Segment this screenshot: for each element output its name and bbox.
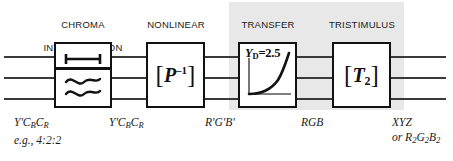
caption-line-1: CHROMA — [38, 19, 128, 31]
signal-name: RGB — [301, 116, 323, 128]
signal-sampling-note: e.g., 4:2:2 — [14, 133, 61, 148]
gamma-value-label: YD=2.5 — [245, 46, 280, 61]
block-nonlinear-matrix[interactable]: [P–1] — [146, 42, 205, 108]
wire-rail-1-segment-4 — [296, 56, 334, 58]
wire-rail-2-segment-3 — [204, 77, 240, 79]
block-tristimulus-matrix[interactable]: [T2] — [332, 42, 391, 108]
wire-rail-3-segment-1 — [4, 98, 56, 100]
wire-rail-3-segment-3 — [204, 98, 240, 100]
wire-rail-2-segment-4 — [296, 77, 334, 79]
signal-label-ycbcr-interpolated: Y'CBCR — [109, 115, 144, 133]
matrix-symbol: T — [352, 64, 364, 86]
caption-line-1: NONLINEAR — [136, 19, 216, 31]
wire-rail-1-segment-5 — [390, 56, 446, 58]
signal-label-nonlinear-rgb: R'G'B' — [205, 115, 235, 130]
wire-rail-1-segment-2 — [111, 56, 148, 58]
block-transfer-function[interactable]: YD=2.5 — [238, 42, 297, 108]
signal-label-input-ycbcr-subsampled: Y'CBCR e.g., 4:2:2 — [14, 115, 61, 148]
wire-rail-2-segment-1 — [4, 77, 56, 79]
wire-rail-3-segment-4 — [296, 98, 334, 100]
gamma-value: =2.5 — [258, 46, 280, 60]
wire-rail-3-segment-5 — [390, 98, 446, 100]
i-beam-icon — [63, 51, 103, 69]
alt-prefix: or R — [392, 131, 412, 143]
alt-mid-b: B — [429, 131, 436, 143]
wire-rail-2-segment-5 — [390, 77, 446, 79]
signal-sub-r: R — [43, 120, 48, 130]
signal-prefix: Y'C — [14, 116, 31, 128]
double-wave-icon — [63, 73, 103, 105]
alt-sub-3: 2 — [436, 135, 440, 145]
bracket-close: ] — [187, 61, 195, 88]
signal-name: XYZ — [392, 116, 412, 128]
signal-name: Y'CBCR — [14, 116, 49, 128]
signal-label-linear-rgb: RGB — [301, 115, 323, 130]
signal-name: Y'CBCR — [109, 116, 144, 128]
caption-line-1: TRANSFER — [228, 19, 308, 31]
alt-mid-g: G — [416, 131, 424, 143]
wire-rail-1-segment-3 — [204, 56, 240, 58]
wire-rail-2-segment-2 — [111, 77, 148, 79]
matrix-label-p-inverse: [P–1] — [148, 61, 203, 89]
wire-rail-3-segment-2 — [111, 98, 148, 100]
signal-alternate-name: or R2G2B2 — [392, 130, 440, 148]
signal-flow-diagram: CHROMA INTERPOLATION NONLINEAR 3×3 TRANS… — [0, 0, 453, 161]
matrix-exponent: –1 — [176, 64, 187, 76]
caption-line-1: TRISTIMULUS — [316, 19, 408, 31]
wire-rail-1-segment-1 — [4, 56, 56, 58]
signal-label-output-tristimulus: XYZ or R2G2B2 — [392, 115, 440, 148]
signal-sub-r: R — [138, 120, 143, 130]
bracket-close: ] — [371, 61, 379, 88]
signal-name: R'G'B' — [205, 116, 235, 128]
matrix-label-t2: [T2] — [334, 61, 389, 89]
matrix-symbol: P — [164, 64, 176, 86]
bracket-open: [ — [156, 61, 164, 88]
signal-prefix: Y'C — [109, 116, 126, 128]
block-chroma-interpolation[interactable] — [54, 42, 112, 108]
